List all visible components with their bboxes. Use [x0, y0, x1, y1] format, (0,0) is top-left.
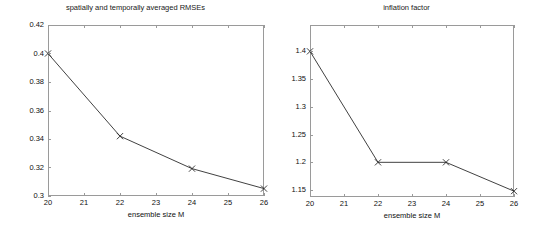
y-tick-mark — [48, 139, 51, 140]
x-tick-mark — [156, 193, 157, 196]
y-tick-mark — [310, 107, 313, 108]
y-tick-label: 0.34 — [6, 135, 44, 143]
x-tick-label: 25 — [224, 199, 232, 207]
x-tick-label: 26 — [510, 200, 518, 208]
y-tick-mark — [310, 162, 313, 163]
x-tick-mark-top — [192, 25, 193, 28]
x-axis-label-rmse: ensemble size M — [128, 210, 184, 219]
y-tick-mark — [48, 196, 51, 197]
x-tick-mark-top — [84, 25, 85, 28]
x-tick-label: 20 — [44, 199, 52, 207]
x-tick-label: 24 — [188, 199, 196, 207]
x-tick-mark-top — [514, 25, 515, 28]
x-tick-label: 21 — [340, 200, 348, 208]
x-tick-label: 24 — [442, 200, 450, 208]
x-tick-mark-top — [48, 25, 49, 28]
x-tick-mark — [344, 194, 345, 197]
x-tick-mark — [446, 194, 447, 197]
y-tick-mark — [48, 53, 51, 54]
y-tick-mark — [310, 135, 313, 136]
x-tick-mark-top — [344, 25, 345, 28]
y-tick-mark — [310, 190, 313, 191]
x-tick-mark — [412, 194, 413, 197]
y-tick-mark — [310, 51, 313, 52]
x-tick-mark — [228, 193, 229, 196]
y-tick-label: 1.4 — [268, 47, 306, 55]
y-tick-label: 1.35 — [268, 75, 306, 83]
x-tick-label: 20 — [306, 200, 314, 208]
x-tick-mark-top — [378, 25, 379, 28]
x-tick-mark-top — [228, 25, 229, 28]
x-tick-mark — [480, 194, 481, 197]
x-tick-mark — [48, 193, 49, 196]
x-tick-mark-top — [446, 25, 447, 28]
y-tick-mark — [310, 79, 313, 80]
chart-panel-rmse: spatially and temporally averaged RMSEs … — [0, 0, 271, 232]
y-tick-label: 0.32 — [6, 164, 44, 172]
x-tick-mark — [264, 193, 265, 196]
x-tick-mark-top — [120, 25, 121, 28]
chart-panel-inflation: inflation factor 1.151.21.251.31.351.420… — [271, 0, 542, 232]
x-tick-mark-top — [156, 25, 157, 28]
x-tick-mark — [84, 193, 85, 196]
x-tick-mark-top — [412, 25, 413, 28]
y-tick-label: 1.15 — [268, 186, 306, 194]
x-axis-label-inflation: ensemble size M — [384, 211, 440, 220]
y-tick-label: 0.38 — [6, 78, 44, 86]
y-tick-label: 1.25 — [268, 131, 306, 139]
x-tick-mark-top — [264, 25, 265, 28]
y-tick-label: 1.2 — [268, 158, 306, 166]
x-tick-mark — [514, 194, 515, 197]
x-tick-mark — [192, 193, 193, 196]
x-tick-label: 23 — [408, 200, 416, 208]
y-tick-label: 0.36 — [6, 107, 44, 115]
y-tick-label: 0.3 — [6, 192, 44, 200]
x-tick-label: 26 — [260, 199, 268, 207]
x-tick-mark — [378, 194, 379, 197]
x-tick-label: 25 — [476, 200, 484, 208]
y-tick-label: 0.42 — [6, 21, 44, 29]
x-tick-mark — [120, 193, 121, 196]
y-tick-mark — [48, 111, 51, 112]
x-tick-mark-top — [310, 25, 311, 28]
data-line-inflation — [271, 0, 542, 232]
y-tick-label: 1.3 — [268, 103, 306, 111]
y-tick-mark — [48, 167, 51, 168]
y-tick-mark — [48, 82, 51, 83]
x-tick-label: 22 — [116, 199, 124, 207]
x-tick-mark-top — [480, 25, 481, 28]
x-tick-label: 23 — [152, 199, 160, 207]
figure-canvas: spatially and temporally averaged RMSEs … — [0, 0, 542, 232]
y-tick-label: 0.4 — [6, 50, 44, 58]
x-tick-mark — [310, 194, 311, 197]
x-tick-label: 21 — [80, 199, 88, 207]
x-tick-label: 22 — [374, 200, 382, 208]
